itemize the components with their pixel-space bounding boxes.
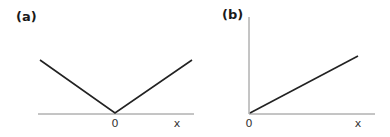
panel-b-graph [249,17,375,114]
panel-a-label: (a) [16,10,37,23]
panel-b-linear-curve [250,56,358,113]
panel-a-v-curve [40,60,192,113]
panel-b-x-axis-label: x [355,118,362,129]
panel-b-label: (b) [222,8,243,21]
panel-a-graph [38,60,194,114]
panel-a-x-axis-label: x [174,118,181,129]
panel-a-origin-label: 0 [112,118,119,129]
diagram-canvas [0,0,390,137]
panel-b-origin-label: 0 [246,118,253,129]
